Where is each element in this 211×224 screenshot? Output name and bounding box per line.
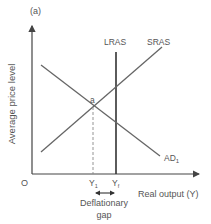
yf-tick-label: Yf [112,178,120,189]
x-axis-label: Real output (Y) [138,189,199,199]
gap-annotation-line1: Deflationary [80,198,129,208]
yf-subscript: f [118,183,120,189]
sras-curve [41,47,162,152]
equilibrium-point-label: a [90,95,95,105]
ad-label-base: AD [164,153,176,163]
ad-label: AD1 [164,153,180,164]
gap-annotation-line2: gap [96,210,111,220]
y-axis-label: Average price level [6,64,17,145]
y1-tick-label: Y1 [89,178,98,189]
ad-curve [41,65,160,156]
panel-label: (a) [30,6,41,16]
origin-label: O [21,178,28,188]
lras-label: LRAS [104,37,127,47]
sras-label: SRAS [147,37,170,47]
ad-label-subscript: 1 [176,158,180,164]
y1-subscript: 1 [95,183,98,189]
ad-as-diagram: (a) Average price level O LRAS SRAS AD1 … [0,0,211,224]
